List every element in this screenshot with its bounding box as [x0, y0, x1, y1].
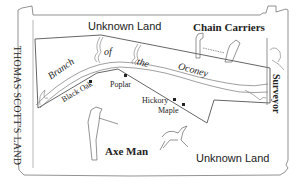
tree-marker-maple	[182, 103, 185, 106]
top-region-label: Unknown Land	[88, 20, 161, 32]
boundary-line	[35, 35, 270, 123]
tree-label-maple: Maple	[158, 106, 178, 115]
tree-label-hickory: Hickory	[142, 96, 168, 105]
deer-illustration	[160, 126, 188, 150]
surveyor-illustration	[270, 48, 284, 70]
thomas-scotts-land-label: THOMAS SCOTT'S LAND	[12, 46, 23, 166]
river-word-of: of	[104, 46, 112, 57]
tree-label-poplar: Poplar	[110, 80, 131, 89]
bottom-region-label: Unknown Land	[196, 152, 269, 164]
chain-carriers-label: Chain Carriers	[193, 21, 265, 33]
axe-man-label: Axe Man	[105, 145, 148, 157]
tree-marker-poplar	[124, 74, 127, 77]
surveyor-label: Surveyor	[271, 74, 282, 113]
tree-marker-hickory	[173, 98, 176, 101]
